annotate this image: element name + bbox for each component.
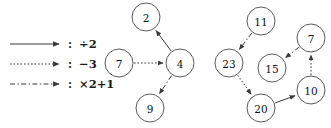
edge-R23-to-R20 bbox=[238, 75, 251, 94]
node-R15[interactable]: 15 bbox=[258, 54, 286, 82]
graphs-container: 274911723151020 bbox=[105, 3, 325, 122]
legend-row-double-plus-one: :×2+1 bbox=[10, 77, 114, 91]
legend-separator: : bbox=[68, 58, 72, 71]
node-label-R23: 23 bbox=[222, 58, 235, 70]
node-L9[interactable]: 9 bbox=[136, 94, 164, 122]
legend-separator: : bbox=[68, 38, 72, 51]
edge-R7-to-R15 bbox=[285, 47, 299, 57]
operation-graph-figure: :÷2:−3:×2+1 274911723151020 bbox=[0, 0, 331, 128]
node-label-L4: 4 bbox=[177, 58, 184, 70]
node-R20[interactable]: 20 bbox=[247, 94, 275, 122]
edge-L4-to-L9 bbox=[159, 75, 171, 93]
node-label-R7: 7 bbox=[308, 33, 315, 45]
node-label-R15: 15 bbox=[265, 63, 278, 75]
node-label-R20: 20 bbox=[254, 103, 267, 115]
node-R7[interactable]: 7 bbox=[297, 24, 325, 52]
legend-separator: : bbox=[68, 78, 72, 91]
graph-left: 2749 bbox=[105, 3, 194, 122]
legend-label-divide-by-two: ÷2 bbox=[79, 37, 97, 51]
node-label-R10: 10 bbox=[304, 85, 317, 97]
node-label-L7: 7 bbox=[116, 58, 123, 70]
legend-label-minus-three: −3 bbox=[79, 57, 97, 71]
node-label-L9: 9 bbox=[147, 103, 154, 115]
node-label-R11: 11 bbox=[254, 16, 267, 28]
graph-right-nodes: 11723151020 bbox=[215, 7, 325, 122]
legend-label-double-plus-one: ×2+1 bbox=[79, 77, 114, 91]
edge-R20-to-R10 bbox=[275, 96, 295, 103]
node-L7[interactable]: 7 bbox=[105, 49, 133, 77]
node-R11[interactable]: 11 bbox=[247, 7, 275, 35]
node-label-L2: 2 bbox=[143, 12, 150, 24]
node-L2[interactable]: 2 bbox=[132, 3, 160, 31]
legend: :÷2:−3:×2+1 bbox=[10, 37, 114, 91]
edge-R11-to-R23 bbox=[239, 33, 252, 50]
node-L4[interactable]: 4 bbox=[166, 49, 194, 77]
legend-row-divide-by-two: :÷2 bbox=[10, 37, 97, 51]
graph-right: 11723151020 bbox=[215, 7, 325, 122]
node-R10[interactable]: 10 bbox=[297, 76, 325, 104]
legend-row-minus-three: :−3 bbox=[10, 57, 97, 71]
edge-L4-to-L2 bbox=[156, 31, 171, 51]
node-R23[interactable]: 23 bbox=[215, 49, 243, 77]
